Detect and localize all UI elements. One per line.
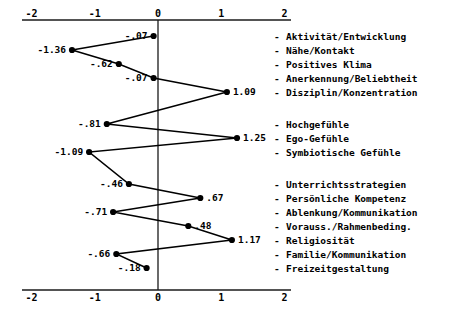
data-value-label: -.71 xyxy=(84,207,107,217)
data-value-label: -.18 xyxy=(118,263,141,273)
category-dash-marker: - xyxy=(274,249,286,260)
data-value-label: .67 xyxy=(206,193,223,203)
data-value-label: .48 xyxy=(194,221,211,231)
x-tick-label: 2 xyxy=(281,292,287,303)
data-point-marker xyxy=(151,75,157,81)
data-value-label: -.07 xyxy=(125,73,148,83)
category-label-text: Aktivität/Entwicklung xyxy=(286,31,406,42)
category-label-row: -Symbiotische Gefühle xyxy=(274,147,400,158)
data-value-label: -.07 xyxy=(125,31,148,41)
data-value-label: -.46 xyxy=(100,179,123,189)
category-dash-marker: - xyxy=(274,235,286,246)
data-point-marker xyxy=(86,149,92,155)
category-label-text: Religiosität xyxy=(286,235,355,246)
profile-line-chart xyxy=(0,0,459,315)
category-label-text: Ablenkung/Kommunikation xyxy=(286,207,418,218)
category-label-row: -Unterrichtsstrategien xyxy=(274,179,406,190)
x-tick-label: 0 xyxy=(155,8,161,19)
category-label-row: -Ego-Gefühle xyxy=(274,133,349,144)
data-value-label: -.62 xyxy=(90,59,113,69)
data-value-label: 1.09 xyxy=(233,87,256,97)
category-dash-marker: - xyxy=(274,73,286,84)
data-point-marker xyxy=(151,33,157,39)
category-label-text: Hochgefühle xyxy=(286,119,349,130)
category-label-text: Familie/Kommunikation xyxy=(286,249,406,260)
category-label-text: Symbiotische Gefühle xyxy=(286,147,400,158)
data-point-marker xyxy=(113,251,119,257)
data-point-marker xyxy=(69,47,75,53)
category-label-text: Unterrichtsstrategien xyxy=(286,179,406,190)
x-tick-label: -2 xyxy=(26,292,38,303)
category-dash-marker: - xyxy=(274,221,286,232)
x-tick-label: -1 xyxy=(89,292,101,303)
data-point-marker xyxy=(116,61,122,67)
category-label-text: Positives Klima xyxy=(286,59,372,70)
profile-polyline xyxy=(72,36,237,268)
x-tick-label: -1 xyxy=(89,8,101,19)
data-value-label: -.66 xyxy=(87,249,110,259)
data-point-marker xyxy=(110,209,116,215)
category-label-text: Vorauss./Rahmenbeding. xyxy=(286,221,412,232)
data-point-marker xyxy=(104,121,110,127)
category-label-text: Persönliche Kompetenz xyxy=(286,193,406,204)
data-value-label: -1.36 xyxy=(37,45,66,55)
data-value-label: -.81 xyxy=(78,119,101,129)
x-tick-label: 1 xyxy=(218,8,224,19)
data-point-marker xyxy=(144,265,150,271)
category-label-row: -Positives Klima xyxy=(274,59,372,70)
x-tick-label: 0 xyxy=(155,292,161,303)
category-label-text: Ego-Gefühle xyxy=(286,133,349,144)
category-label-row: -Disziplin/Konzentration xyxy=(274,87,418,98)
category-label-text: Freizeitgestaltung xyxy=(286,263,389,274)
x-tick-label: -2 xyxy=(26,8,38,19)
category-dash-marker: - xyxy=(274,31,286,42)
data-point-marker xyxy=(224,89,230,95)
category-label-row: -Persönliche Kompetenz xyxy=(274,193,406,204)
category-dash-marker: - xyxy=(274,45,286,56)
category-label-row: -Nähe/Kontakt xyxy=(274,45,355,56)
category-label-text: Nähe/Kontakt xyxy=(286,45,355,56)
category-dash-marker: - xyxy=(274,193,286,204)
category-label-row: -Anerkennung/Beliebtheit xyxy=(274,73,418,84)
data-point-marker xyxy=(229,237,235,243)
data-point-marker xyxy=(197,195,203,201)
category-dash-marker: - xyxy=(274,133,286,144)
category-label-row: -Religiosität xyxy=(274,235,355,246)
category-label-row: -Aktivität/Entwicklung xyxy=(274,31,406,42)
category-label-row: -Vorauss./Rahmenbeding. xyxy=(274,221,412,232)
category-dash-marker: - xyxy=(274,263,286,274)
category-dash-marker: - xyxy=(274,119,286,130)
category-label-row: -Freizeitgestaltung xyxy=(274,263,389,274)
category-dash-marker: - xyxy=(274,87,286,98)
data-point-marker xyxy=(126,181,132,187)
data-value-label: -1.09 xyxy=(55,147,84,157)
data-value-label: 1.25 xyxy=(243,133,266,143)
category-label-row: -Hochgefühle xyxy=(274,119,349,130)
category-dash-marker: - xyxy=(274,59,286,70)
chart-container: -2-1012 -2-1012 -.07-1.36-.62-.071.09-.8… xyxy=(0,0,459,315)
data-point-marker xyxy=(185,223,191,229)
category-label-text: Disziplin/Konzentration xyxy=(286,87,418,98)
x-tick-label: 1 xyxy=(218,292,224,303)
category-dash-marker: - xyxy=(274,179,286,190)
category-dash-marker: - xyxy=(274,207,286,218)
category-label-text: Anerkennung/Beliebtheit xyxy=(286,73,418,84)
data-value-label: 1.17 xyxy=(238,235,261,245)
data-point-marker xyxy=(234,135,240,141)
x-tick-label: 2 xyxy=(281,8,287,19)
category-label-row: -Ablenkung/Kommunikation xyxy=(274,207,418,218)
category-dash-marker: - xyxy=(274,147,286,158)
category-label-row: -Familie/Kommunikation xyxy=(274,249,406,260)
